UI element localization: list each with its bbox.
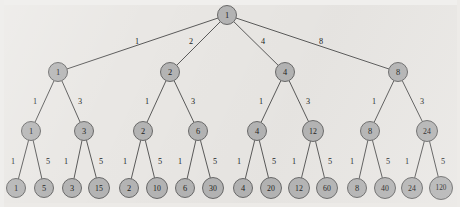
node-value-label: 8 [355,184,359,193]
tree-edge-level2-2 [74,140,82,178]
tree-edge-level2-9 [259,140,268,178]
node-value-label: 40 [381,184,389,193]
edge-weight-label-root-1: 2 [189,37,193,46]
tree-node-level2-2: 2 [134,122,153,141]
edge-weight-label-level1-2: 1 [145,97,149,106]
tree-node-leaf-14: 24 [402,178,423,199]
tree-edge-level1-4 [261,81,281,123]
tree-node-leaf-15: 120 [430,177,453,200]
edge-weight-label-level2-10: 1 [292,157,296,166]
edge-weight-label-level2-6: 1 [178,157,182,166]
node-value-label: 24 [423,127,431,136]
tree-edge-level2-0 [18,140,28,179]
tree-edge-root-1 [177,22,221,66]
tree-node-level2-1: 3 [75,122,94,141]
tree-node-leaf-2: 3 [63,179,82,198]
node-value-label: 12 [295,184,303,193]
node-value-label: 6 [196,127,200,136]
edge-weight-label-level1-4: 1 [259,97,263,106]
tree-node-leaf-13: 40 [375,178,396,199]
tree-nodes-layer: 1124813264128241531521063042012608402412… [7,6,453,200]
node-value-label: 3 [70,184,74,193]
tree-node-level1-3: 8 [389,63,408,82]
edge-weight-label-level2-14: 1 [405,157,409,166]
node-value-label: 2 [168,68,172,77]
tree-edge-labels-layer: 1248131313131515151515151515 [11,37,445,166]
tree-edge-level2-4 [131,140,140,179]
node-value-label: 6 [183,184,187,193]
node-value-label: 5 [42,184,46,193]
edge-weight-label-level2-5: 5 [158,157,162,166]
node-value-label: 8 [396,68,400,77]
tree-node-leaf-10: 12 [289,178,310,199]
edge-weight-label-level1-0: 1 [33,97,37,106]
tree-edge-level2-6 [187,140,196,178]
edge-weight-label-level1-5: 3 [306,97,310,106]
tree-edge-root-0 [67,18,218,69]
edge-weight-label-level2-2: 1 [64,157,68,166]
tree-edge-root-2 [234,22,278,66]
edge-weight-label-level1-7: 3 [420,97,424,106]
tree-edge-level1-6 [374,81,394,123]
node-value-label: 1 [29,127,33,136]
edge-weight-label-root-3: 8 [319,37,323,46]
scan-edge-top [0,0,460,5]
node-value-label: 15 [95,184,103,193]
tree-node-leaf-4: 2 [120,179,139,198]
edge-weight-label-root-2: 4 [261,37,265,46]
tree-node-level2-7: 24 [417,121,438,142]
tree-node-leaf-12: 8 [348,179,367,198]
tree-edge-level2-7 [200,140,210,178]
node-value-label: 1 [56,68,60,77]
tree-node-level2-4: 4 [248,122,267,141]
edge-weight-label-level2-13: 5 [386,157,390,166]
recursion-tree-diagram: 1248131313131515151515151515 11248132641… [0,0,460,207]
edge-weight-label-root-0: 1 [135,37,139,46]
tree-edge-level2-15 [430,141,439,177]
scan-edge-left [0,0,4,207]
node-value-label: 1 [14,184,18,193]
edge-weight-label-level2-9: 5 [272,157,276,166]
edge-weight-label-level2-15: 5 [441,157,445,166]
tree-node-root: 1 [218,6,237,25]
edge-weight-label-level2-7: 5 [213,157,217,166]
node-value-label: 1 [225,11,229,20]
tree-node-level2-3: 6 [189,122,208,141]
tree-node-leaf-7: 30 [203,178,224,199]
edge-weight-label-level1-1: 3 [78,97,82,106]
tree-edge-level2-8 [245,140,254,179]
node-value-label: 2 [141,127,145,136]
scan-edge-bottom [0,203,460,207]
tree-node-leaf-6: 6 [176,179,195,198]
edge-weight-label-level1-6: 1 [372,97,376,106]
tree-edge-level2-11 [316,141,325,178]
tree-svg-canvas: 1248131313131515151515151515 11248132641… [0,0,460,207]
tree-edge-level1-2 [147,81,166,123]
node-value-label: 3 [82,127,86,136]
tree-edge-level2-5 [145,140,154,178]
tree-node-leaf-11: 60 [317,178,338,199]
tree-edge-level2-12 [359,140,368,178]
edge-weight-label-level2-8: 1 [237,157,241,166]
tree-node-level1-1: 2 [161,63,180,82]
tree-node-level2-0: 1 [22,122,41,141]
edge-weight-label-level2-12: 1 [350,157,354,166]
node-value-label: 30 [209,184,217,193]
tree-node-leaf-3: 15 [89,178,110,199]
node-value-label: 20 [267,184,275,193]
tree-edge-level2-14 [415,141,425,178]
tree-node-level2-6: 8 [361,122,380,141]
tree-node-leaf-1: 5 [35,179,54,198]
edge-weight-label-level2-1: 5 [46,157,50,166]
node-value-label: 60 [323,184,331,193]
tree-edge-level2-1 [33,140,42,178]
tree-node-level1-2: 4 [276,63,295,82]
edge-weight-label-level2-11: 5 [328,157,332,166]
node-value-label: 24 [408,184,416,193]
edge-weight-label-level1-3: 3 [191,97,195,106]
node-value-label: 120 [436,184,447,192]
tree-edge-level2-3 [86,140,96,178]
tree-node-leaf-9: 20 [261,178,282,199]
node-value-label: 8 [368,127,372,136]
edge-weight-label-level2-4: 1 [123,157,127,166]
